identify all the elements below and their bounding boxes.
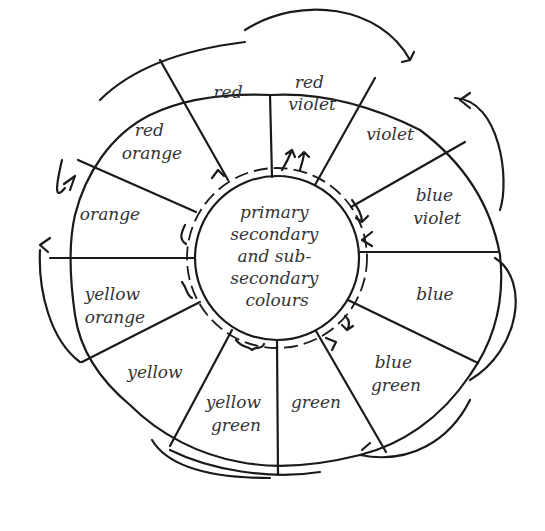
label-orange: orange: [80, 204, 140, 224]
label-yellow-orange: yellow orange: [84, 284, 146, 327]
center-label: primary secondary and sub- secondary col…: [230, 202, 324, 310]
label-red-violet: red violet: [288, 72, 336, 114]
label-red: red: [213, 82, 242, 102]
colour-wheel-diagram: red red violet violet blue violet blue b…: [0, 0, 545, 531]
label-yellow: yellow: [126, 362, 183, 382]
label-yellow-green: yellow green: [205, 392, 267, 435]
label-violet: violet: [366, 124, 414, 144]
label-blue-violet: blue violet: [413, 185, 461, 228]
label-green: green: [291, 392, 341, 412]
label-blue-green: blue green: [371, 352, 421, 395]
label-blue: blue: [416, 284, 453, 304]
